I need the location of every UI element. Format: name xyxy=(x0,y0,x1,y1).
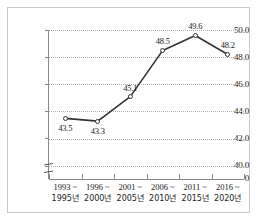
x-tick-mark-6 xyxy=(244,174,245,179)
data-point-label: 49.6 xyxy=(178,22,212,31)
x-tick-label-5: 2016 ~2020년 xyxy=(205,182,251,204)
x-tick-mark-1 xyxy=(82,174,83,179)
x-tick-mark-0 xyxy=(49,174,50,179)
x-tick-mark-3 xyxy=(147,174,148,179)
data-point-label: 48.5 xyxy=(146,37,180,46)
gridline-40 xyxy=(49,166,244,167)
data-point-marker xyxy=(128,94,133,99)
chart-frame: 50.0 48.0 46.0 44.0 42.0 40.0 0 43.543.3… xyxy=(7,7,250,213)
data-point-marker xyxy=(63,116,68,121)
data-point-marker xyxy=(193,33,198,38)
data-point-label: 48.2 xyxy=(211,41,245,50)
data-point-label: 43.3 xyxy=(81,127,115,136)
data-point-label: 43.5 xyxy=(48,124,82,133)
x-tick-mark-5 xyxy=(212,174,213,179)
x-axis-line xyxy=(49,179,244,180)
data-point-label: 45.1 xyxy=(113,84,147,93)
data-point-marker xyxy=(95,119,100,124)
x-tick-mark-2 xyxy=(114,174,115,179)
plot-area: 43.543.345.148.549.648.2 xyxy=(49,30,244,166)
x-tick-mark-4 xyxy=(179,174,180,179)
